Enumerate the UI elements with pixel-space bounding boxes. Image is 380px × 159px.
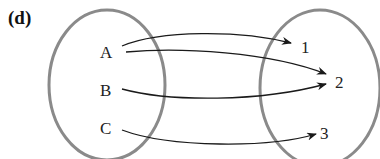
codomain-element-3: 3 [320,124,329,143]
arrow-a-to-2 [126,50,326,74]
codomain-element-2: 2 [335,73,344,92]
domain-element-b: B [100,81,111,100]
domain-element-c: C [100,119,111,138]
arrow-a-to-1 [122,34,291,46]
domain-element-a: A [100,43,113,62]
mapping-diagram: (d) A B C 1 2 3 [0,0,380,159]
arrow-b-to-2 [122,84,326,98]
codomain-element-1: 1 [301,38,310,57]
panel-label: (d) [8,7,31,29]
